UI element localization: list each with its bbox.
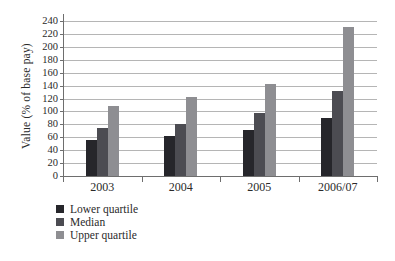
y-axis-tick-label: 0: [28, 170, 58, 182]
legend-item-lower-quartile: Lower quartile: [56, 203, 138, 216]
bar-lower-quartile-2005: [243, 130, 254, 177]
x-axis-label: 2004: [142, 180, 221, 195]
y-axis-tick: [60, 73, 63, 74]
y-axis-tick-label: 20: [28, 157, 58, 169]
gridline: [64, 60, 377, 61]
x-axis-label: 2006/07: [299, 180, 378, 195]
legend-swatch-lower-quartile: [56, 205, 64, 213]
y-axis-tick-label: 200: [28, 41, 58, 53]
gridline: [64, 21, 377, 22]
bar-lower-quartile-2004: [164, 136, 175, 176]
legend-label-lower-quartile: Lower quartile: [70, 203, 138, 215]
bar-lower-quartile-2003: [86, 140, 97, 176]
y-axis-tick-label: 180: [28, 54, 58, 66]
y-axis-line: [63, 14, 64, 177]
bar-lower-quartile-2006-07: [321, 118, 332, 176]
bar-upper-quartile-2003: [108, 106, 119, 176]
bar-chart-figure: Value (% of base pay) 2003200420052006/0…: [0, 0, 395, 261]
y-axis-tick: [60, 150, 63, 151]
bar-upper-quartile-2006-07: [343, 27, 354, 176]
gridline: [64, 34, 377, 35]
y-axis-tick-label: 140: [28, 80, 58, 92]
x-axis-label: 2005: [220, 180, 299, 195]
gridline: [64, 47, 377, 48]
y-axis-tick-label: 240: [28, 15, 58, 27]
legend-label-median: Median: [70, 216, 105, 228]
y-axis-tick-label: 100: [28, 105, 58, 117]
y-axis-tick-label: 220: [28, 28, 58, 40]
y-axis-tick: [60, 47, 63, 48]
y-axis-tick: [60, 34, 63, 35]
legend-label-upper-quartile: Upper quartile: [70, 229, 137, 241]
y-axis-tick: [60, 124, 63, 125]
y-axis-tick-label: 120: [28, 93, 58, 105]
bar-median-2006-07: [332, 91, 343, 176]
legend-item-median: Median: [56, 216, 138, 229]
bar-upper-quartile-2005: [265, 84, 276, 176]
y-axis-tick-label: 60: [28, 131, 58, 143]
legend-swatch-upper-quartile: [56, 231, 64, 239]
bar-median-2005: [254, 113, 265, 176]
legend-item-upper-quartile: Upper quartile: [56, 229, 138, 242]
y-axis-tick: [60, 99, 63, 100]
gridline: [64, 99, 377, 100]
y-axis-tick: [60, 111, 63, 112]
x-axis-tick: [142, 177, 143, 182]
y-axis-tick: [60, 137, 63, 138]
y-axis-tick: [60, 60, 63, 61]
y-axis-tick: [60, 86, 63, 87]
x-axis-tick: [299, 177, 300, 182]
legend-swatch-median: [56, 218, 64, 226]
chart-legend: Lower quartile Median Upper quartile: [56, 203, 138, 241]
y-axis-tick: [60, 163, 63, 164]
x-axis-tick: [63, 177, 64, 182]
x-axis-tick: [220, 177, 221, 182]
y-axis-tick-label: 80: [28, 118, 58, 130]
gridline: [64, 86, 377, 87]
x-axis-label: 2003: [63, 180, 142, 195]
gridline: [64, 73, 377, 74]
bar-median-2003: [97, 128, 108, 176]
bar-upper-quartile-2004: [186, 97, 197, 176]
y-axis-tick-label: 40: [28, 144, 58, 156]
x-axis-tick: [377, 177, 378, 182]
y-axis-tick: [60, 21, 63, 22]
bar-median-2004: [175, 124, 186, 176]
y-axis-tick-label: 160: [28, 67, 58, 79]
